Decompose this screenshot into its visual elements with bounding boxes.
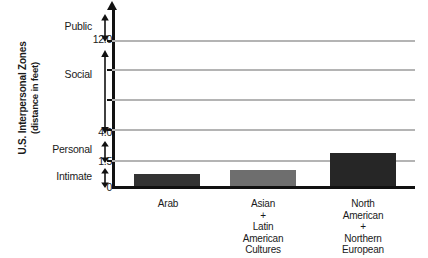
category-label-asian-line2: + (215, 210, 311, 222)
category-label-na-line1: North (315, 198, 411, 210)
plot-area (112, 12, 415, 188)
category-label-asian-line3: Latin (215, 221, 311, 233)
category-label-north-american-northern-european: North American + Northern European (315, 198, 411, 256)
gridline-4 (112, 129, 415, 131)
gridline-g3 (112, 99, 415, 101)
category-label-arab-line1: Arab (120, 198, 216, 210)
x-axis-line (112, 186, 415, 189)
category-label-asian-latin-american: Asian + Latin American Cultures (215, 198, 311, 256)
category-label-na-line5: European (315, 244, 411, 256)
gridline-g2 (112, 69, 415, 71)
category-label-asian-line1: Asian (215, 198, 311, 210)
category-label-row: Arab Asian + Latin American Cultures Nor… (112, 192, 415, 258)
range-arrow-social-icon (98, 50, 112, 134)
range-arrow-public-icon (98, 14, 112, 42)
category-label-na-line4: Northern (315, 233, 411, 245)
bar-north-american-northern-european[interactable] (330, 153, 396, 188)
interpersonal-zones-bar-chart: U.S. Interpersonal Zones (distance in fe… (0, 0, 428, 258)
category-label-na-line3: + (315, 221, 411, 233)
category-label-na-line2: American (315, 210, 411, 222)
category-label-asian-line5: Cultures (215, 244, 311, 256)
category-label-asian-line4: American (215, 233, 311, 245)
range-arrow-intimate-icon (98, 168, 112, 188)
gridline-12 (112, 40, 415, 42)
category-label-arab: Arab (120, 198, 216, 210)
